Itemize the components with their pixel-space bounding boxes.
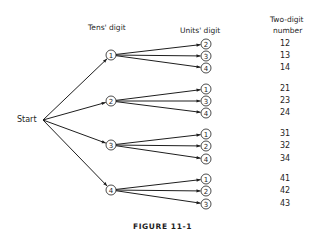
units-digit-node: 2 bbox=[201, 39, 211, 49]
units-digit-node: 4 bbox=[201, 63, 211, 73]
units-digit-node: 2 bbox=[201, 186, 211, 196]
two-digit-number: 32 bbox=[273, 141, 297, 150]
svg-text:2: 2 bbox=[204, 143, 208, 151]
units-digit-node: 3 bbox=[201, 199, 211, 209]
svg-text:2: 2 bbox=[204, 41, 208, 49]
units-digit-node: 1 bbox=[201, 129, 211, 139]
units-digit-node: 4 bbox=[201, 108, 211, 118]
svg-text:3: 3 bbox=[204, 201, 208, 209]
tens-digit-node: 2 bbox=[106, 96, 116, 106]
svg-text:1: 1 bbox=[204, 131, 208, 139]
two-digit-number: 42 bbox=[273, 186, 297, 195]
two-digit-number: 34 bbox=[273, 154, 297, 163]
units-digit-node: 3 bbox=[201, 51, 211, 61]
units-digit-node: 1 bbox=[201, 174, 211, 184]
two-digit-number: 23 bbox=[273, 96, 297, 105]
svg-text:3: 3 bbox=[204, 98, 208, 106]
two-digit-number: 21 bbox=[273, 84, 297, 93]
tens-digit-node: 1 bbox=[106, 50, 116, 60]
figure-caption: FIGURE 11-1 bbox=[133, 222, 192, 231]
two-digit-number: 31 bbox=[273, 129, 297, 138]
two-digit-number: 24 bbox=[273, 108, 297, 117]
svg-text:4: 4 bbox=[109, 187, 114, 195]
svg-text:1: 1 bbox=[204, 86, 208, 94]
two-digit-number: 12 bbox=[273, 39, 297, 48]
tens-digit-node: 4 bbox=[106, 185, 116, 195]
svg-text:1: 1 bbox=[109, 52, 113, 60]
svg-text:3: 3 bbox=[204, 53, 208, 61]
svg-text:4: 4 bbox=[204, 110, 209, 118]
units-digit-node: 3 bbox=[201, 96, 211, 106]
two-digit-number: 41 bbox=[273, 174, 297, 183]
units-digit-node: 4 bbox=[201, 154, 211, 164]
two-digit-number: 13 bbox=[273, 51, 297, 60]
svg-text:2: 2 bbox=[204, 188, 208, 196]
units-digit-node: 2 bbox=[201, 141, 211, 151]
svg-text:4: 4 bbox=[204, 156, 209, 164]
svg-text:4: 4 bbox=[204, 65, 209, 73]
units-digit-node: 1 bbox=[201, 84, 211, 94]
two-digit-number: 43 bbox=[273, 199, 297, 208]
svg-text:2: 2 bbox=[109, 98, 113, 106]
svg-text:3: 3 bbox=[109, 142, 113, 150]
svg-text:1: 1 bbox=[204, 176, 208, 184]
two-digit-number: 14 bbox=[273, 63, 297, 72]
tens-digit-node: 3 bbox=[106, 140, 116, 150]
